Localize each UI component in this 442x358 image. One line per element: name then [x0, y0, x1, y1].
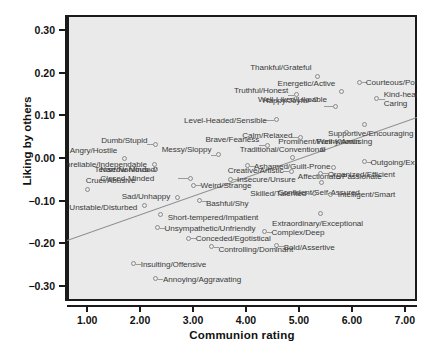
- label-leader-line: [211, 155, 216, 156]
- y-tick-mark: [59, 114, 66, 116]
- x-tick-mark: [298, 305, 300, 312]
- y-tick-label: −0.10: [13, 196, 55, 206]
- y-tick-mark: [59, 29, 66, 31]
- data-point-label: Traditional/Conventional: [240, 145, 326, 154]
- data-point-label: Insulting/Offensive: [141, 259, 207, 268]
- x-tick-mark: [404, 305, 406, 312]
- x-tick-label: 6.00: [329, 315, 375, 325]
- x-tick-label: 3.00: [170, 315, 216, 325]
- data-point: [158, 212, 163, 217]
- y-tick-label: −0.30: [13, 281, 55, 291]
- data-layer: Thankful/GratefulCourteous/PoliteEnerget…: [67, 15, 417, 301]
- data-point-label: Messy/Sloppy: [162, 144, 212, 153]
- data-point: [289, 169, 294, 174]
- x-axis-line: [67, 305, 417, 307]
- data-point-label-line: Caring: [384, 99, 417, 108]
- data-point: [216, 152, 221, 157]
- data-point-label: Creative/Artistic: [228, 166, 284, 175]
- data-point-label: Kind-hearted/Caring: [384, 89, 417, 107]
- label-leader-line: [306, 193, 312, 194]
- data-point-label: Truthful/Honest: [234, 85, 288, 94]
- data-point-label: Cruel/Abusive: [86, 176, 136, 185]
- data-point: [188, 176, 193, 181]
- y-tick-label: 0.30: [13, 25, 55, 35]
- x-tick-mark: [245, 305, 247, 312]
- data-point-label: Angry/Hostile: [70, 146, 117, 155]
- data-point-label: Bashful/Shy: [206, 198, 249, 207]
- y-tick-label: 0.20: [13, 68, 55, 78]
- x-tick-label: 2.00: [117, 315, 163, 325]
- label-leader-line: [178, 178, 188, 179]
- data-point-label: Well-Liked/Likeable: [258, 95, 327, 104]
- data-point: [362, 122, 367, 127]
- y-tick-label: −0.20: [13, 238, 55, 248]
- label-leader-line: [147, 144, 153, 145]
- y-tick-mark: [59, 157, 66, 159]
- label-leader-line: [283, 171, 289, 172]
- data-point: [85, 187, 90, 192]
- y-tick-label: 0.00: [13, 153, 55, 163]
- label-leader-line: [324, 106, 333, 107]
- data-point-label: Intelligent/Smart: [338, 190, 396, 199]
- data-point: [175, 195, 180, 200]
- data-point-label: Conceded/Egotistical: [196, 234, 271, 243]
- data-point: [142, 203, 147, 208]
- data-point-label: Organized/Efficient: [328, 170, 395, 179]
- y-tick-mark: [59, 72, 66, 74]
- data-point: [333, 104, 338, 109]
- y-tick-mark: [59, 285, 66, 287]
- x-axis-title: Communion rating: [67, 329, 417, 341]
- data-point-label: Short-tempered/Impatient: [168, 212, 259, 221]
- data-point-label: Complex/Deep: [272, 227, 325, 236]
- data-point: [344, 130, 349, 135]
- data-point-label-line: Narrow-Minded/: [100, 165, 178, 174]
- data-point-label: Unstable/Disturbed: [69, 202, 137, 211]
- data-point: [274, 117, 279, 122]
- x-tick-label: 4.00: [223, 315, 269, 325]
- y-tick-label: 0.10: [13, 110, 55, 120]
- x-tick-mark: [351, 305, 353, 312]
- data-point: [153, 142, 158, 147]
- data-point-label: Sad/Unhappy: [122, 192, 171, 201]
- data-point-label: Dumb/Stupid: [101, 136, 147, 145]
- scatter-plot-figure: 0.300.200.100.00−0.10−0.20−0.30 1.002.00…: [0, 0, 442, 358]
- data-point: [318, 211, 323, 216]
- y-axis-title: Liking by others: [21, 51, 33, 231]
- x-tick-label: 1.00: [64, 315, 110, 325]
- data-point: [319, 180, 324, 185]
- data-point-label: Thankful/Grateful: [250, 63, 311, 72]
- data-point-label: Unsympathetic/Unfriendly: [165, 223, 256, 232]
- x-tick-label: 7.00: [382, 315, 428, 325]
- data-point: [312, 191, 317, 196]
- x-tick-mark: [192, 305, 194, 312]
- data-point-label: Skilled/Talented: [250, 189, 306, 198]
- data-point: [290, 155, 295, 160]
- x-tick-mark: [139, 305, 141, 312]
- y-tick-mark: [59, 200, 66, 202]
- data-point-label: Courteous/Polite: [366, 78, 417, 87]
- data-point-label: Outgoing/Extraverted: [371, 157, 417, 166]
- data-point: [339, 89, 344, 94]
- data-point-label: Brave/Fearless: [205, 135, 259, 144]
- data-point-label: Weird/Strange: [201, 181, 252, 190]
- y-tick-mark: [59, 242, 66, 244]
- data-point-label: Controlling/Dominant: [219, 244, 294, 253]
- x-tick-mark: [86, 305, 88, 312]
- data-point-label: Level-Headed/Sensible: [184, 115, 267, 124]
- data-point-label-line: Kind-hearted/: [384, 89, 417, 98]
- data-point-label: Annoying/Aggravating: [163, 274, 241, 283]
- x-tick-label: 5.00: [276, 315, 322, 325]
